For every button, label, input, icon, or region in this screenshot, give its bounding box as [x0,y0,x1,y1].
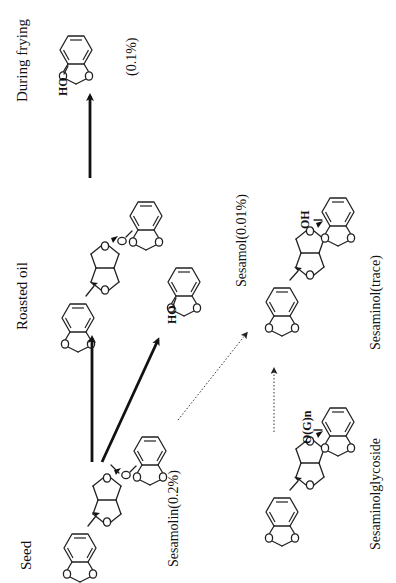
stage-label-during-frying: During frying [14,19,30,102]
arrow-sesamolin-to-sesaminol [178,334,246,420]
sesamol-roasted-ho: HO [165,305,179,324]
compound-label-sesaminol-glycoside: Sesaminolglycoside [368,438,383,550]
compound-label-sesamol-roasted: Sesamol(0.01%) [234,194,250,287]
compound-label-sesaminol: Sesaminol(trace) [368,255,384,350]
sesamol-frying-ho: HO [56,77,70,96]
sesaminol-oh: OH [298,210,312,229]
sesame-lignan-transformation-diagram: Seed Roasted oil During frying Sesamolin… [0,0,396,583]
compound-label-sesamol-frying: (0.1%) [124,37,140,76]
sesaminol-glycoside-og: O(G)n [300,410,314,444]
structure-sesamol-frying [59,36,92,84]
compound-label-sesamolin: Sesamolin(0.2%) [166,470,182,567]
structure-sesamolin [63,437,166,582]
structure-roasted-sesamolin [61,202,162,352]
stage-label-roasted-oil: Roasted oil [14,262,30,330]
arrow-seed-to-sesamol [102,340,158,462]
stage-label-seed: Seed [18,540,34,570]
